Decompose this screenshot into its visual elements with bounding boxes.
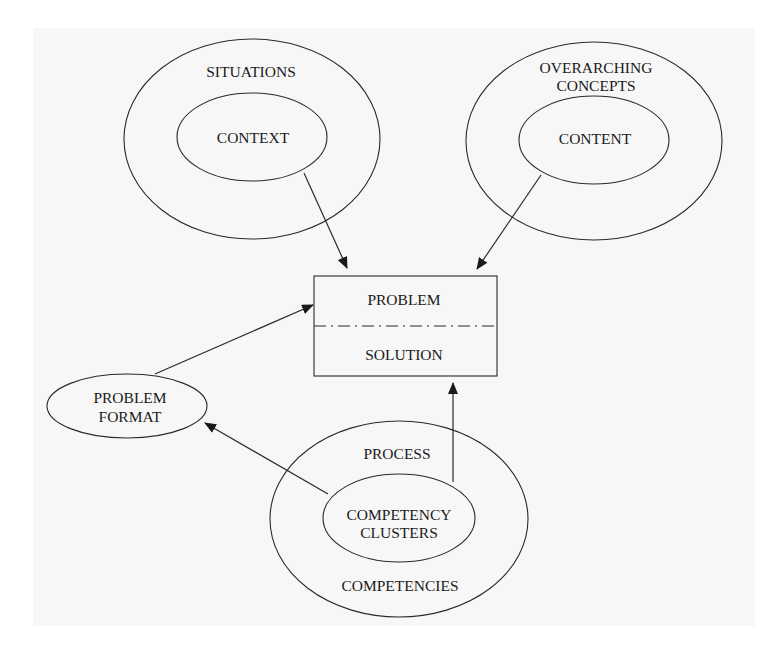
problem-label: PROBLEM	[367, 291, 440, 308]
arrow-clusters-to-problem-format	[205, 423, 328, 494]
overarching-label-line2: CONCEPTS	[556, 77, 635, 94]
situations-label: SITUATIONS	[206, 63, 296, 80]
problem-format-node: PROBLEM FORMAT	[47, 374, 207, 438]
arrow-context-to-problem	[304, 173, 347, 268]
problem-format-label-line2: FORMAT	[99, 408, 162, 425]
competencies-label: COMPETENCIES	[341, 577, 458, 594]
arrow-problem-format-to-problem	[155, 305, 313, 374]
competencies-node: PROCESS COMPETENCY CLUSTERS COMPETENCIES	[270, 421, 528, 617]
problem-solution-box: PROBLEM SOLUTION	[314, 276, 497, 376]
process-label: PROCESS	[363, 445, 430, 462]
overarching-label-line1: OVERARCHING	[540, 59, 653, 76]
problem-format-ellipse	[47, 374, 207, 438]
diagram-canvas: SITUATIONS CONTEXT OVERARCHING CONCEPTS …	[0, 0, 771, 645]
problem-format-label-line1: PROBLEM	[93, 389, 166, 406]
solution-label: SOLUTION	[365, 346, 443, 363]
context-label: CONTEXT	[217, 129, 290, 146]
competency-label-line2: CLUSTERS	[360, 524, 438, 541]
content-label: CONTENT	[559, 130, 632, 147]
arrow-content-to-problem	[477, 175, 541, 269]
overarching-concepts-node: OVERARCHING CONCEPTS CONTENT	[466, 42, 722, 240]
competency-label-line1: COMPETENCY	[346, 506, 451, 523]
situations-node: SITUATIONS CONTEXT	[124, 39, 380, 239]
